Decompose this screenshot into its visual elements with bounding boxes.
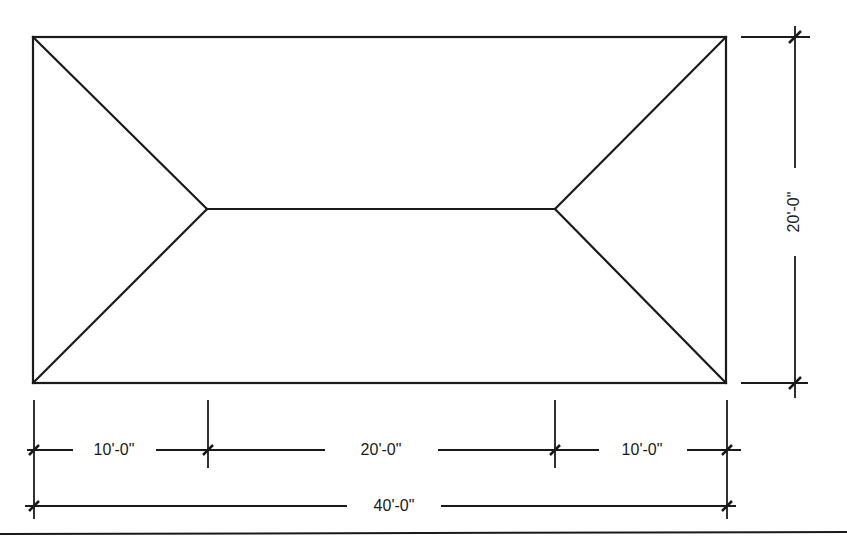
overall-width-label: 40'-0" — [374, 497, 415, 514]
middle-segment-label: 20'-0" — [361, 441, 402, 458]
page-rule — [0, 532, 847, 534]
height-dimension-label: 20'-0" — [785, 192, 802, 233]
hip-line-top-right — [555, 37, 726, 209]
left-segment-label: 10'-0" — [94, 441, 135, 458]
hip-line-top-left — [33, 37, 207, 209]
right-segment-label: 10'-0" — [622, 441, 663, 458]
hip-line-bottom-right — [555, 209, 726, 383]
roof-plan-drawing: 20'-0" 10'-0" 20'-0" 10'-0" 40'-0" — [0, 0, 847, 550]
hip-line-bottom-left — [33, 209, 207, 383]
